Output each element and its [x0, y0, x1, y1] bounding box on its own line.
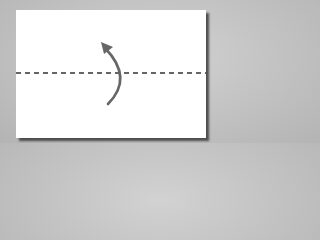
- fold-diagram: [0, 0, 221, 143]
